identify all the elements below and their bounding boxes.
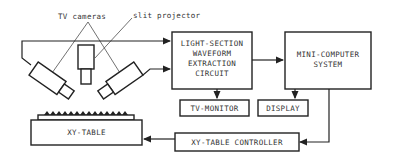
camera-right-signal-line — [143, 69, 170, 75]
mini-computer-line-2: SYSTEM — [314, 60, 343, 69]
tv-monitor-label: TV-MONITOR — [190, 104, 238, 113]
mini-computer-block: MINI-COMPUTER SYSTEM — [285, 32, 371, 89]
mini-computer-line-1: MINI-COMPUTER — [297, 50, 360, 59]
tv-camera-right-icon — [96, 62, 143, 101]
light-section-line-1: LIGHT-SECTION — [181, 39, 244, 48]
light-section-line-3: EXTRACTION — [188, 59, 236, 68]
slit-projector-label: slit projector — [133, 11, 201, 20]
light-section-circuit-block: LIGHT-SECTION WAVEFORM EXTRACTION CIRCUI… — [172, 32, 252, 89]
tv-camera-left-icon — [29, 62, 76, 101]
light-section-line-4: CIRCUIT — [195, 69, 229, 78]
xy-table-controller-label: XY-TABLE CONTROLLER — [191, 138, 283, 147]
light-section-line-2: WAVEFORM — [193, 49, 232, 58]
system-block-diagram: TV cameras slit projector XY-TABLE LIGHT… — [0, 0, 393, 165]
xy-table-controller-block: XY-TABLE CONTROLLER — [175, 133, 299, 151]
tv-cameras-label: TV cameras — [58, 12, 106, 21]
specimen-surface — [38, 111, 134, 120]
display-label: DISPLAY — [266, 104, 300, 113]
display-block: DISPLAY — [258, 100, 308, 116]
xy-table-block: XY-TABLE — [31, 120, 142, 145]
camera-left-signal-line — [22, 41, 170, 65]
slit-projector-icon — [78, 45, 94, 84]
xy-table-label: XY-TABLE — [67, 128, 106, 137]
tv-monitor-block: TV-MONITOR — [180, 100, 249, 116]
